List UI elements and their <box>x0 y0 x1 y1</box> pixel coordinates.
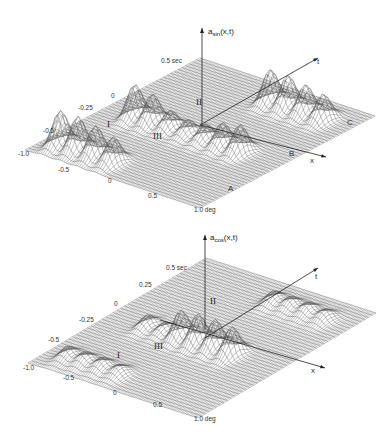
x-tick-1.0: 1.0 deg <box>194 416 216 423</box>
t-tick-0.25: 0.25 <box>139 282 152 289</box>
x-tick-1.0: 1.0 deg <box>194 207 216 214</box>
region-label-III: III <box>153 132 162 141</box>
x-tick-0.5: 0.5 <box>153 402 162 409</box>
mesh-surface-sin <box>0 0 384 220</box>
x-tick-minus-1.0: -1.0 <box>18 151 29 158</box>
t-tick-minus-0.5: -0.5 <box>43 128 54 135</box>
z-axis-label-cos: acos(x,t) <box>210 234 238 243</box>
mesh-lines <box>25 58 375 208</box>
t-tick-0.5: 0.5 sec <box>161 58 182 65</box>
x-axis-label-sin: x <box>310 157 314 165</box>
t-tick-minus-0.25: -0.25 <box>78 105 93 112</box>
mesh-surface-cos <box>0 220 384 440</box>
t-tick-minus-0.25: -0.25 <box>79 317 94 324</box>
t-tick-minus-0.5: -0.5 <box>48 337 59 344</box>
x-tick-minus-0.5: -0.5 <box>63 375 74 382</box>
t-axis-label-sin: t <box>317 58 319 66</box>
t-tick-0: 0 <box>111 93 115 100</box>
z-axis-label-sin: asin(x,t) <box>208 28 234 37</box>
region-label-II: II <box>196 98 202 107</box>
x-tick-minus-0.5: -0.5 <box>58 167 69 174</box>
region-label-II: II <box>210 297 216 306</box>
x-axis-label-cos: x <box>311 367 315 375</box>
line-label-A: A <box>228 185 233 193</box>
region-label-I: I <box>117 351 120 360</box>
surface-plot-cos: acos(x,t) 0.5 sec 0.25 0 -0.25 -0.5 -1.0… <box>0 220 384 440</box>
region-label-III: III <box>154 342 163 351</box>
x-tick-minus-1.0: -1.0 <box>23 365 34 372</box>
surface-plot-sin: asin(x,t) 0.5 sec 0 -0.25 -0.5 -1.0 -0.5… <box>0 0 384 220</box>
x-tick-0.5: 0.5 <box>148 193 157 200</box>
line-label-B: B <box>289 150 294 158</box>
t-axis-label-cos: t <box>315 273 317 281</box>
mesh-lines <box>28 258 376 418</box>
t-tick-0.5: 0.5 sec <box>166 265 187 272</box>
t-tick-0: 0 <box>114 301 118 308</box>
x-tick-0: 0 <box>113 390 117 397</box>
line-label-C: C <box>347 119 353 127</box>
region-label-I: I <box>107 120 110 129</box>
x-tick-0: 0 <box>108 178 112 185</box>
